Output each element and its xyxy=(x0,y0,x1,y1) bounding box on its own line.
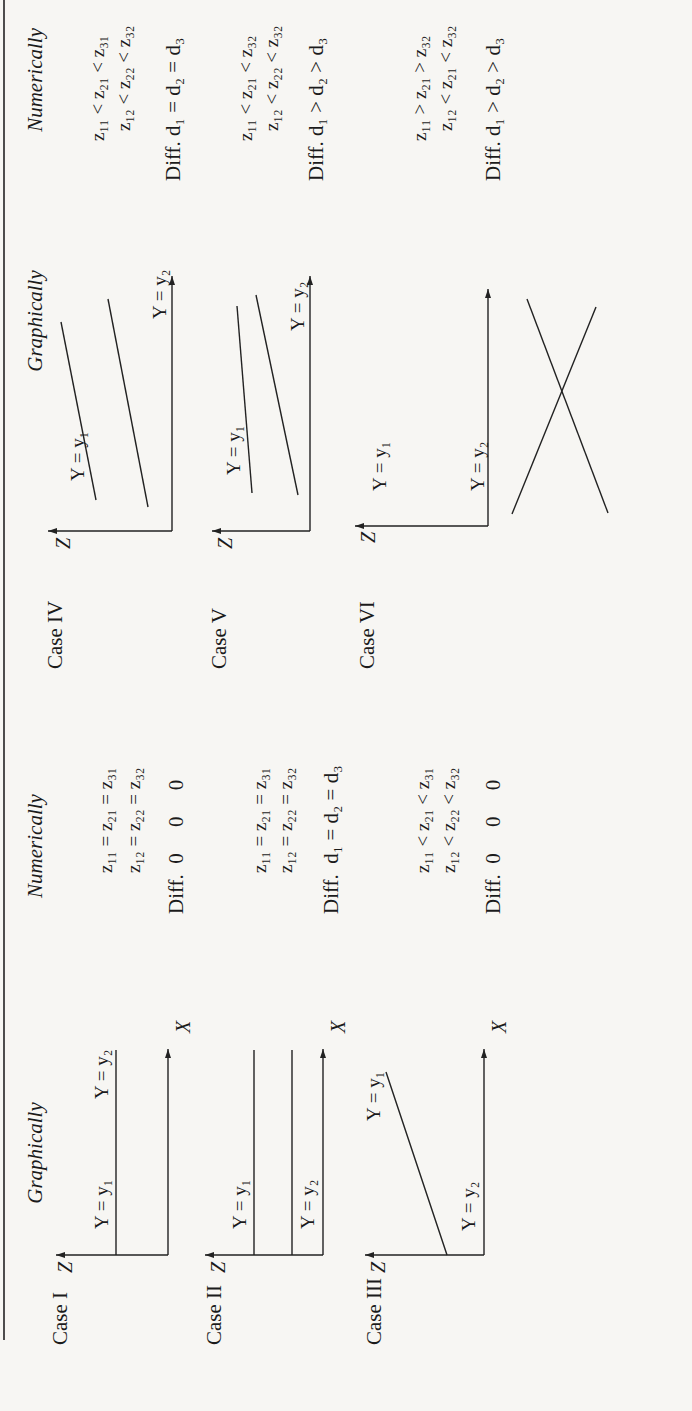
axis-z-label: Z xyxy=(367,1261,389,1273)
header-graphically-left: Graphically xyxy=(23,1102,47,1204)
line-y1-y2-sloped xyxy=(386,1072,447,1255)
numeric-row-1: z₁₁ = z₂₁ = z₃₁ xyxy=(249,768,270,873)
numeric-row-2: z₁₂ < z₂₂ < z₃₂ xyxy=(261,26,282,131)
rotated-table-page: Graphically Numerically Case I Z X Y = y… xyxy=(0,0,692,1411)
line-y2 xyxy=(527,299,608,513)
diff-row: Diff. d₁ > d₂ > d₃ xyxy=(481,38,505,181)
case-5: Case V Z Y = y₁ Y = y₂ z₁₁ < z₂₁ < z₃₂ z… xyxy=(207,26,328,669)
diff-row: Diff. 0 0 0 xyxy=(164,780,188,914)
line-label-y1: Y = y₁ xyxy=(363,1072,384,1121)
numeric-row-2: z₁₂ < z₂₂ < z₃₂ xyxy=(113,26,134,131)
axis-x-label: X xyxy=(172,1020,194,1034)
line-label-y2: Y = y₂ xyxy=(287,282,308,331)
axis-z-label: Z xyxy=(52,537,74,549)
case-label: Case I xyxy=(48,1292,72,1345)
line-label-y1: Y = y₁ xyxy=(91,1180,112,1229)
line-label-y2: Y = y₂ xyxy=(467,442,488,491)
line-label-y2: Y = y₂ xyxy=(458,1182,479,1231)
numeric-row-2: z₁₂ < z₂₂ < z₃₂ xyxy=(438,768,459,873)
numeric-row-1: z₁₁ < z₂₁ < z₃₁ xyxy=(87,36,108,141)
case-2: Case II Z X Y = y₁ Y = y₂ z₁₁ = z₂₁ = z₃… xyxy=(202,765,349,1345)
line-label-y1: Y = y₁ xyxy=(369,442,390,491)
numeric-row-2: z₁₂ = z₂₂ = z₃₂ xyxy=(123,768,144,873)
line-label-y2: Y = y₂ xyxy=(297,1180,318,1229)
numeric-row-1: z₁₁ < z₂₁ < z₃₂ xyxy=(235,36,256,141)
axis-z-label: Z xyxy=(54,1261,76,1273)
diff-row: Diff. d₁ = d₂ = d₃ xyxy=(161,38,185,181)
axis-z-label: Z xyxy=(214,537,236,549)
line-label-y1: Y = y₁ xyxy=(229,1180,250,1229)
numeric-row-1: z₁₁ < z₂₁ < z₃₁ xyxy=(412,768,433,873)
case-4: Case IV Z Y = y₁ Y = y₂ z₁₁ < z₂₁ < z₃₁ … xyxy=(43,26,185,669)
line-y2 xyxy=(108,299,148,507)
case-label: Case II xyxy=(202,1285,226,1345)
header-numerically-left: Numerically xyxy=(23,793,47,898)
axis-z-label: Z xyxy=(207,1261,229,1273)
line-y1 xyxy=(512,307,596,514)
numeric-row-2: z₁₂ < z₂₁ < z₃₂ xyxy=(435,26,456,131)
case-6: Case VI Z Y = y₁ Y = y₂ z₁₁ > z₂₁ > z₃₂ … xyxy=(355,26,608,669)
numeric-row-1: z₁₁ > z₂₁ > z₃₂ xyxy=(409,36,430,141)
header-numerically-right: Numerically xyxy=(23,27,47,132)
axis-x-label: X xyxy=(488,1020,510,1034)
numeric-row-1: z₁₁ = z₂₁ = z₃₁ xyxy=(95,768,116,873)
case-label: Case VI xyxy=(355,601,379,669)
line-label-y1: Y = y₁ xyxy=(223,426,244,475)
diff-row: Diff. d₁ = d₂ = d₃ xyxy=(319,765,343,914)
case-1: Case I Z X Y = y₁ Y = y₂ z₁₁ = z₂₁ = z₃₁… xyxy=(48,768,194,1345)
header-graphically-right: Graphically xyxy=(23,270,47,372)
diff-row: Diff. 0 0 0 xyxy=(481,780,505,914)
case-3: Case III Z X Y = y₁ Y = y₂ z₁₁ < z₂₁ < z… xyxy=(362,768,510,1345)
case-label: Case IV xyxy=(43,601,67,669)
axis-z-label: Z xyxy=(357,531,379,543)
axis-x-label: X xyxy=(327,1020,349,1034)
interaction-cases-table: Graphically Numerically Case I Z X Y = y… xyxy=(0,0,692,1411)
case-label: Case III xyxy=(362,1278,386,1345)
diff-row: Diff. d₁ > d₂ > d₃ xyxy=(304,38,328,181)
line-label-y2: Y = y₂ xyxy=(149,270,170,319)
numeric-row-2: z₁₂ = z₂₂ = z₃₂ xyxy=(275,768,296,873)
line-label-y1: Y = y₁ xyxy=(67,432,88,481)
line-label-y2: Y = y₂ xyxy=(91,1050,112,1099)
case-label: Case V xyxy=(207,608,231,669)
